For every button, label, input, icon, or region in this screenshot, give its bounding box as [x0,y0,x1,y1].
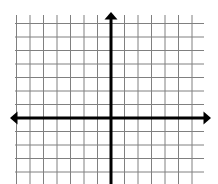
graph-canvas [0,0,218,184]
x-axis-arrowhead-right [204,112,212,125]
x-axis-arrowhead-left [10,112,18,125]
y-axis-arrowhead-up [105,12,118,20]
coordinate-plane-graphic [0,0,218,184]
